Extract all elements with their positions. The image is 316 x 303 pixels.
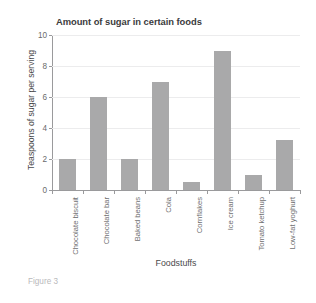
x-tick-label: Chocolate bar (102, 197, 111, 244)
y-tick-label: 10 (38, 31, 47, 40)
x-tick-mark (207, 190, 208, 194)
x-tick-label: Tomato ketchup (257, 197, 266, 251)
x-tick-mark (83, 190, 84, 194)
x-tick-label: Cola (164, 197, 173, 213)
y-tick-label: 8 (42, 62, 47, 71)
figure-container: Amount of sugar in certain foods Teaspoo… (0, 0, 316, 303)
x-tick-label: Baked beans (133, 197, 142, 241)
figure-caption: Figure 3 (28, 277, 58, 286)
x-tick-label: Chocolate biscuit (71, 197, 80, 255)
bar (90, 97, 107, 190)
x-tick-mark (145, 190, 146, 194)
bar (152, 82, 169, 191)
y-tick-label: 2 (42, 155, 47, 164)
bar (214, 51, 231, 191)
y-tick-label: 4 (42, 124, 47, 133)
plot-inner: 0246810 Chocolate biscuitChocolate barBa… (52, 35, 300, 190)
y-tick-label: 0 (42, 186, 47, 195)
bar (121, 159, 138, 190)
bars-layer (52, 35, 300, 190)
x-tick-mark (114, 190, 115, 194)
x-tick-mark (176, 190, 177, 194)
x-axis-title: Foodstuffs (52, 258, 300, 268)
bar (59, 159, 76, 190)
chart-title: Amount of sugar in certain foods (56, 16, 286, 27)
y-axis-title: Teaspoons of sugar per serving (26, 30, 36, 190)
x-tick-label: Ice cream (226, 197, 235, 230)
x-tick-mark (238, 190, 239, 194)
x-tick-mark (300, 190, 301, 194)
bar (276, 140, 293, 190)
bar (183, 182, 200, 190)
x-tick-mark (52, 190, 53, 194)
x-tick-label: Cornflakes (195, 197, 204, 233)
x-tick-mark (269, 190, 270, 194)
x-tick-label: Low-fat yoghurt (288, 197, 297, 249)
y-tick-label: 6 (42, 93, 47, 102)
bar (245, 175, 262, 191)
plot-area: 0246810 Chocolate biscuitChocolate barBa… (52, 35, 300, 190)
